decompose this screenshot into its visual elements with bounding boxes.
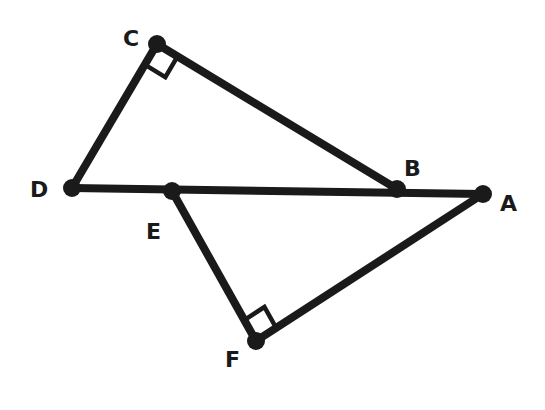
label-a: A xyxy=(500,191,517,216)
point-d xyxy=(63,179,81,197)
label-e: E xyxy=(146,219,161,244)
label-b: B xyxy=(404,156,421,181)
geometry-diagram: C D E B A F xyxy=(0,0,545,410)
label-d: D xyxy=(30,177,48,202)
point-e xyxy=(163,182,181,200)
point-c xyxy=(148,35,166,53)
segment-cb xyxy=(157,44,397,189)
segment-da xyxy=(72,188,483,194)
segments xyxy=(72,44,483,341)
point-f xyxy=(247,332,265,350)
segment-fa xyxy=(256,194,483,341)
label-f: F xyxy=(225,347,240,372)
label-c: C xyxy=(123,26,139,51)
point-a xyxy=(474,185,492,203)
point-b xyxy=(388,180,406,198)
